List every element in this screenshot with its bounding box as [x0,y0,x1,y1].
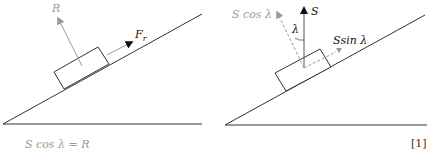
lambda-label: λ [291,23,299,36]
R-label: R [51,2,60,15]
right-incline-diagram: S S cos λ λ Ssin λ [1] [225,5,427,150]
R-arrow [59,20,82,66]
Scos-label: S cos λ [232,8,272,21]
left-incline-diagram: R Fr S cos λ = R [3,2,202,151]
block [54,47,109,89]
equation-label: S cos λ = R [25,138,89,151]
incline-line [3,14,202,124]
block [275,49,331,91]
S-label: S [311,5,319,18]
Fr-label: Fr [134,28,148,43]
Fr-arrow [107,43,130,55]
Ssin-arrowhead [336,48,342,53]
diagram-canvas: R Fr S cos λ = R S S cos λ λ Ssin λ [1] [0,0,434,153]
Ssin-label: Ssin λ [333,34,367,47]
mark-label: [1] [411,137,427,150]
angle-arc [295,38,304,40]
